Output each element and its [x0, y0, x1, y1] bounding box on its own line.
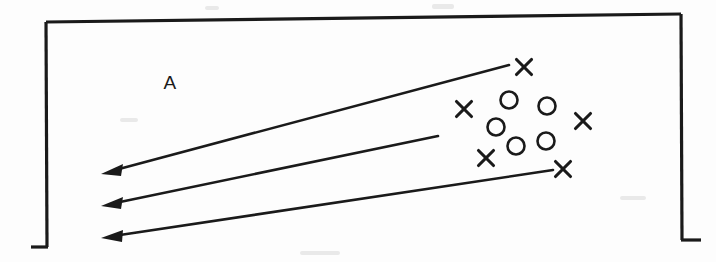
figure-label-a: A — [163, 72, 176, 93]
arrow-lower — [101, 170, 553, 242]
x-marker — [457, 102, 472, 117]
circle-marker — [488, 119, 505, 136]
arrow-upper-shaft — [119, 65, 509, 169]
arrow-middle-head — [101, 197, 123, 209]
frame — [31, 14, 701, 247]
figure-canvas: A — [0, 0, 716, 262]
x-markers — [457, 60, 591, 177]
circle-markers — [488, 92, 556, 155]
circle-marker — [538, 133, 555, 150]
scan-noise — [120, 4, 646, 255]
arrow-middle — [101, 136, 438, 209]
circle-marker — [508, 138, 525, 155]
x-marker — [517, 60, 532, 75]
circle-marker — [501, 92, 518, 109]
x-marker — [556, 162, 571, 177]
frame-left-edge — [46, 22, 47, 247]
arrow-upper — [101, 65, 509, 176]
arrow-middle-shaft — [120, 136, 438, 202]
x-marker — [479, 151, 494, 166]
diagram-svg: A — [0, 0, 716, 262]
arrow-lower-shaft — [120, 170, 553, 235]
frame-top-edge — [46, 14, 681, 22]
arrow-upper-head — [101, 164, 123, 176]
arrow-lower-head — [101, 230, 123, 242]
x-marker — [576, 114, 591, 129]
circle-marker — [539, 98, 556, 115]
frame-right-edge — [681, 14, 682, 240]
